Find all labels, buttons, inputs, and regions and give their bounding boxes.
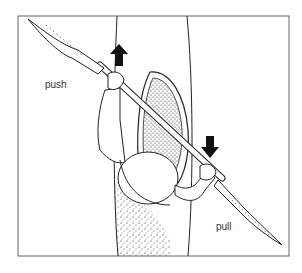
- paddler-helmet: [118, 152, 178, 204]
- paddle-blade-lower: [214, 180, 282, 245]
- pull-arrow-icon: [201, 136, 219, 158]
- push-arrow-icon: [110, 44, 128, 66]
- push-label: push: [45, 79, 67, 90]
- paddle-blade-upper: [28, 19, 104, 74]
- paddler-left-arm: [98, 88, 125, 163]
- pull-label: pull: [216, 221, 232, 232]
- kayak-stroke-illustration: [0, 0, 302, 273]
